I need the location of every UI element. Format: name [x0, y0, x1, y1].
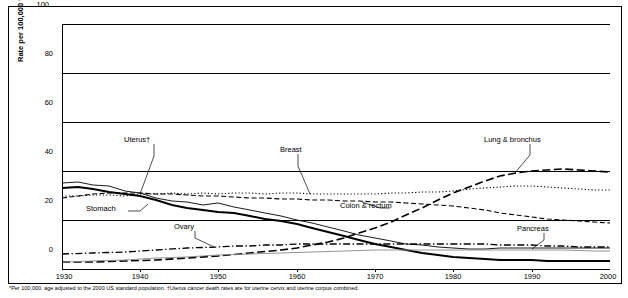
x-tick-1990: 1990 — [517, 273, 547, 281]
series-label-ovary: Ovary — [174, 223, 194, 231]
y-tick-40: 40 — [29, 148, 53, 156]
leader-uterus — [140, 144, 154, 194]
y-tick-60: 60 — [29, 99, 53, 107]
series-label-breast: Breast — [280, 146, 302, 154]
series-label-uterus: Uterus† — [124, 136, 150, 144]
x-tick-1950: 1950 — [203, 273, 233, 281]
annotation-leaders — [62, 24, 610, 270]
series-label-colon-rectum: Colon & rectum — [340, 202, 392, 210]
y-tick-0: 0 — [29, 246, 53, 254]
leader-stomach — [128, 204, 148, 211]
y-tick-100: 100 — [25, 1, 49, 9]
leader-lung — [514, 144, 530, 174]
leader-pancreas — [532, 233, 544, 249]
chart-page: Rate per 100,000 female population 0 20 … — [0, 0, 628, 298]
leader-breast — [298, 154, 310, 194]
x-tick-1930: 1930 — [49, 273, 79, 281]
x-tick-1970: 1970 — [360, 273, 390, 281]
chart-frame: Rate per 100,000 female population 0 20 … — [8, 6, 622, 284]
chart-footnote: *Per 100,000, age adjusted to the 2000 U… — [9, 285, 359, 291]
x-tick-2000: 2000 — [593, 273, 623, 281]
y-axis-label: Rate per 100,000 female population — [16, 0, 25, 62]
plot-area: Uterus† Stomach Breast Colon & rectum Lu… — [62, 24, 610, 270]
leader-ovary — [195, 231, 214, 247]
series-label-pancreas: Pancreas — [517, 225, 549, 233]
x-tick-1980: 1980 — [438, 273, 468, 281]
series-label-stomach: Stomach — [86, 205, 116, 213]
y-tick-20: 20 — [29, 197, 53, 205]
series-label-lung-bronchus: Lung & bronchus — [484, 136, 541, 144]
y-tick-80: 80 — [29, 50, 53, 58]
x-tick-1960: 1960 — [282, 273, 312, 281]
x-tick-1940: 1940 — [125, 273, 155, 281]
